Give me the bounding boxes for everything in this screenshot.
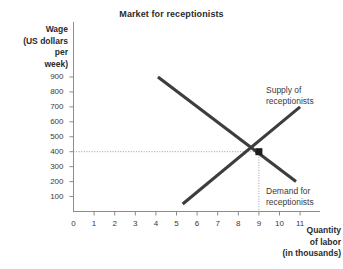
x-tick-label: 7: [210, 219, 226, 228]
x-tick-label: 5: [169, 219, 185, 228]
y-tick-label: 200: [38, 177, 64, 186]
x-tick-label: 11: [292, 219, 308, 228]
supply-label-line-1: Supply of: [266, 85, 314, 96]
y-tick-label: 400: [38, 147, 64, 156]
demand-label-line-1: Demand for: [266, 186, 314, 197]
y-tick-label: 600: [38, 117, 64, 126]
y-tick-label: 800: [38, 87, 64, 96]
demand-label-line-2: receptionists: [266, 197, 314, 208]
x-tick-label: 4: [148, 219, 164, 228]
demand-curve-label: Demand for receptionists: [266, 186, 314, 208]
x-tick-label: 6: [189, 219, 205, 228]
x-tick-label: 10: [272, 219, 288, 228]
y-tick-label: 300: [38, 162, 64, 171]
y-tick-label: 100: [38, 192, 64, 201]
y-tick-label: 500: [38, 132, 64, 141]
x-tick-label: 1: [86, 219, 102, 228]
equilibrium-point-marker: [255, 148, 262, 155]
chart-figure: Market for receptionists Wage (US dollar…: [0, 0, 343, 269]
y-tick-marks: [70, 77, 74, 197]
x-tick-label: 0: [66, 219, 82, 228]
x-tick-label: 3: [127, 219, 143, 228]
x-tick-label: 8: [230, 219, 246, 228]
y-tick-label: 700: [38, 102, 64, 111]
x-tick-label: 9: [251, 219, 267, 228]
x-tick-label: 2: [107, 219, 123, 228]
supply-label-line-2: receptionists: [266, 96, 314, 107]
supply-curve-label: Supply of receptionists: [266, 85, 314, 107]
y-tick-label: 900: [38, 72, 64, 81]
x-tick-marks: [94, 212, 300, 216]
